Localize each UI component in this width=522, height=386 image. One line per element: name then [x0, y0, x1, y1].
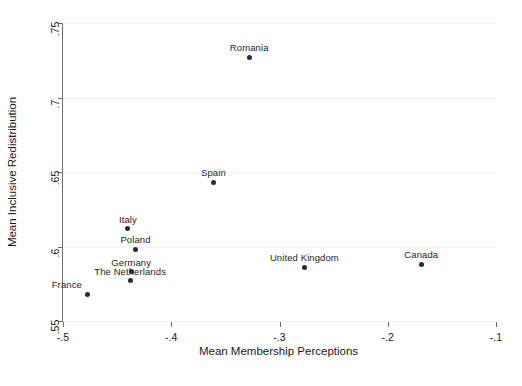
data-point-label: The Netherlands [94, 266, 166, 277]
scatter-plot-figure: .55.6.65.7.75 -.5-.4-.3-.2-.1 RomaniaSpa… [0, 0, 522, 386]
data-point-label: Italy [119, 214, 137, 225]
x-axis-tick-label: -.1 [490, 331, 502, 343]
gridline-y [63, 172, 496, 173]
data-point-label: Poland [120, 234, 150, 245]
y-axis-tick [58, 247, 63, 248]
y-axis-tick-label-container: .75 [54, 23, 55, 24]
y-axis-tick-label-container: .7 [54, 98, 55, 99]
plot-area: .55.6.65.7.75 -.5-.4-.3-.2-.1 RomaniaSpa… [62, 23, 496, 322]
gridline-y [63, 247, 496, 248]
y-axis-tick-label-container: .65 [54, 172, 55, 173]
x-axis-tick-label: -.3 [273, 331, 285, 343]
y-axis-tick [58, 98, 63, 99]
x-axis-tick [280, 322, 281, 327]
data-point-label: United Kingdom [270, 252, 339, 263]
y-axis-tick-label: .75 [49, 22, 61, 37]
y-axis-tick-label: .6 [49, 248, 61, 257]
data-point [125, 226, 130, 231]
x-axis-tick [388, 322, 389, 327]
data-point [419, 262, 424, 267]
x-axis-title: Mean Membership Perceptions [62, 345, 495, 357]
data-point [302, 265, 307, 270]
y-axis-tick-label: .7 [49, 99, 61, 108]
data-point [85, 292, 90, 297]
data-point-label: Spain [201, 167, 226, 178]
x-axis-tick [171, 322, 172, 327]
data-point [128, 278, 133, 283]
y-axis-tick-label-container: .6 [54, 247, 55, 248]
data-point-label: France [52, 279, 82, 290]
data-point-label: Canada [404, 249, 438, 260]
data-point-label: Romania [230, 42, 269, 53]
x-axis-tick-label: -.2 [382, 331, 394, 343]
gridline-y [63, 98, 496, 99]
gridline-y [63, 23, 496, 24]
data-point [211, 180, 216, 185]
x-axis-tick [63, 322, 64, 327]
x-axis-tick-label: -.5 [57, 331, 69, 343]
y-axis-title: Mean Inclusive Redistribution [6, 97, 18, 247]
y-axis-tick-label-container: .55 [54, 321, 55, 322]
data-point [133, 247, 138, 252]
y-axis-title-container: Mean Inclusive Redistribution [4, 23, 20, 321]
y-axis-tick-label: .65 [49, 171, 61, 186]
x-axis-tick [496, 322, 497, 327]
x-axis-tick-label: -.4 [165, 331, 177, 343]
data-point [247, 55, 252, 60]
